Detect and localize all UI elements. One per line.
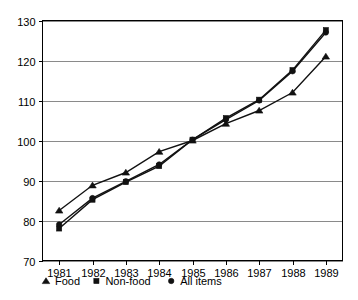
y-tick-label: 70 <box>23 256 35 268</box>
x-tick-label: 1989 <box>314 267 338 279</box>
x-tick-label: 1984 <box>147 267 171 279</box>
y-tick-label: 110 <box>18 96 36 108</box>
x-tick-label: 1987 <box>247 267 271 279</box>
data-point-marker <box>256 98 261 103</box>
x-tick-label: 1982 <box>81 267 105 279</box>
data-point-marker <box>290 69 295 74</box>
legend-label: All items <box>180 275 222 287</box>
data-point-marker <box>56 222 61 227</box>
data-point-marker <box>323 30 328 35</box>
legend-marker-circle-icon <box>168 278 173 283</box>
y-tick-label: 130 <box>17 16 35 28</box>
y-tick-label: 80 <box>23 216 35 228</box>
data-point-marker <box>223 117 228 122</box>
data-point-marker <box>156 162 161 167</box>
data-point-marker <box>123 179 128 184</box>
y-tick-label: 100 <box>17 136 35 148</box>
line-chart: 708090100110120130 198119821983198419851… <box>0 0 358 300</box>
data-point-marker <box>190 137 195 142</box>
chart-canvas: 708090100110120130 198119821983198419851… <box>0 0 358 300</box>
legend-marker-square-icon <box>94 278 99 283</box>
x-tick-label: 1988 <box>281 267 305 279</box>
legend-label: Non-food <box>105 275 150 287</box>
y-tick-label: 90 <box>23 176 35 188</box>
y-tick-label: 120 <box>17 56 35 68</box>
chart-legend: FoodNon-foodAll items <box>42 275 222 287</box>
data-point-marker <box>90 195 95 200</box>
legend-label: Food <box>55 275 80 287</box>
